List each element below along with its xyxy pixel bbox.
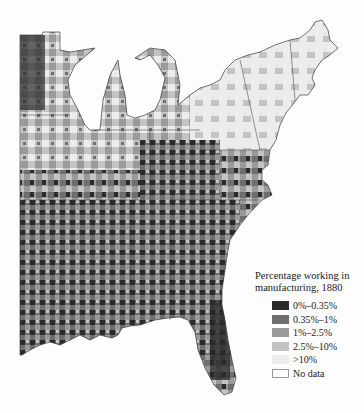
legend-swatch bbox=[272, 355, 289, 364]
map-legend: Percentage working in manufacturing, 188… bbox=[255, 270, 364, 380]
legend-item-1: 0.35%–1% bbox=[272, 313, 364, 327]
legend-label: 2.5%–10% bbox=[293, 341, 337, 352]
legend-swatch bbox=[272, 315, 289, 324]
legend-item-0: 0%–0.35% bbox=[272, 299, 364, 313]
legend-swatch bbox=[272, 342, 289, 351]
legend-label: >10% bbox=[293, 354, 317, 365]
legend-swatch bbox=[272, 328, 289, 337]
legend-swatch bbox=[272, 369, 289, 378]
legend-label: 0.35%–1% bbox=[293, 314, 337, 325]
legend-label: 0%–0.35% bbox=[293, 300, 337, 311]
legend-title: Percentage working in manufacturing, 188… bbox=[255, 270, 364, 294]
legend-item-4: >10% bbox=[272, 353, 364, 367]
legend-label: No data bbox=[293, 368, 324, 379]
legend-item-3: 2.5%–10% bbox=[272, 340, 364, 354]
legend-item-2: 1%–2.5% bbox=[272, 326, 364, 340]
legend-item-5: No data bbox=[272, 367, 364, 381]
legend-swatch bbox=[272, 301, 289, 310]
legend-label: 1%–2.5% bbox=[293, 327, 332, 338]
